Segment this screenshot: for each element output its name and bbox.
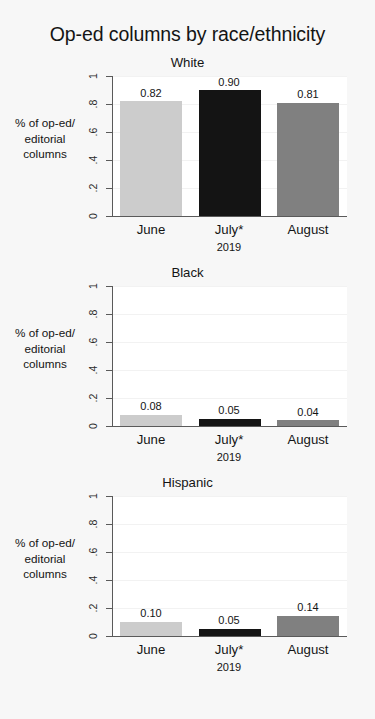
panel-black: Black % of op-ed/ editorial columns 0 .2… xyxy=(0,265,375,475)
y-axis-title: % of op-ed/ editorial columns xyxy=(8,115,82,162)
y-axis-title-line1: % of op-ed/ xyxy=(8,535,82,551)
x-axis-spine xyxy=(112,426,347,427)
y-tick-label: .4 xyxy=(87,359,99,381)
gridline xyxy=(112,370,347,371)
x-label-august: August xyxy=(277,642,339,657)
y-tick-label: .4 xyxy=(87,569,99,591)
x-label-july: July* xyxy=(198,432,260,447)
y-axis-title-line1: % of op-ed/ xyxy=(8,325,82,341)
x-label-june: June xyxy=(120,222,182,237)
bar-value-august: 0.14 xyxy=(277,601,339,613)
x-label-june: June xyxy=(120,642,182,657)
bar-value-august: 0.04 xyxy=(277,406,339,418)
y-axis-title-line2: editorial xyxy=(8,341,82,357)
bar-value-july: 0.90 xyxy=(198,76,260,88)
chart-figure: Op-ed columns by race/ethnicity White % … xyxy=(0,0,375,719)
x-label-august: August xyxy=(277,432,339,447)
bar-july[interactable] xyxy=(199,629,261,636)
y-tick-label: .8 xyxy=(87,513,99,535)
y-axis-title: % of op-ed/ editorial columns xyxy=(8,325,82,372)
x-label-july: July* xyxy=(198,222,260,237)
x-sub-label-year: 2019 xyxy=(198,661,260,673)
y-tick-label: .6 xyxy=(87,331,99,353)
y-tick-label: .2 xyxy=(87,597,99,619)
y-axis-title-line3: columns xyxy=(8,146,82,162)
gridline xyxy=(112,398,347,399)
bar-june[interactable] xyxy=(120,101,182,216)
bar-value-july: 0.05 xyxy=(198,404,260,416)
gridline xyxy=(112,524,347,525)
bar-august[interactable] xyxy=(277,616,339,636)
y-axis-spine xyxy=(112,496,113,636)
gridline xyxy=(112,552,347,553)
y-tick-label: .8 xyxy=(87,93,99,115)
bar-june[interactable] xyxy=(120,622,182,636)
page-title: Op-ed columns by race/ethnicity xyxy=(0,23,375,46)
bar-august[interactable] xyxy=(277,103,339,216)
panel-title-hispanic: Hispanic xyxy=(0,475,375,490)
gridline xyxy=(112,314,347,315)
bar-july[interactable] xyxy=(199,90,261,216)
gridline xyxy=(112,580,347,581)
bar-june[interactable] xyxy=(120,415,182,426)
y-tick-label: 1 xyxy=(87,275,99,297)
x-label-june: June xyxy=(120,432,182,447)
gridline xyxy=(112,496,347,497)
y-tick-label: 0 xyxy=(87,205,99,227)
panel-title-white: White xyxy=(0,55,375,70)
bar-value-june: 0.82 xyxy=(120,87,182,99)
gridline xyxy=(112,342,347,343)
y-axis-title-line2: editorial xyxy=(8,131,82,147)
y-tick-label: 0 xyxy=(87,415,99,437)
y-tick-label: .6 xyxy=(87,121,99,143)
gridline xyxy=(112,286,347,287)
y-axis-spine xyxy=(112,76,113,216)
y-axis-title-line3: columns xyxy=(8,566,82,582)
x-label-august: August xyxy=(277,222,339,237)
y-tick-label: .2 xyxy=(87,177,99,199)
panel-hispanic: Hispanic % of op-ed/ editorial columns 0… xyxy=(0,475,375,719)
bar-value-july: 0.05 xyxy=(198,614,260,626)
panel-white: White % of op-ed/ editorial columns 0 .2… xyxy=(0,55,375,265)
bar-value-june: 0.10 xyxy=(120,607,182,619)
x-sub-label-year: 2019 xyxy=(198,451,260,463)
bar-value-june: 0.08 xyxy=(120,400,182,412)
y-tick-label: .4 xyxy=(87,149,99,171)
y-tick-label: .2 xyxy=(87,387,99,409)
x-label-july: July* xyxy=(198,642,260,657)
y-axis-title-line3: columns xyxy=(8,356,82,372)
y-tick-label: .6 xyxy=(87,541,99,563)
y-axis-title-line2: editorial xyxy=(8,551,82,567)
bar-value-august: 0.81 xyxy=(277,88,339,100)
x-sub-label-year: 2019 xyxy=(198,241,260,253)
y-axis-title-line1: % of op-ed/ xyxy=(8,115,82,131)
x-axis-spine xyxy=(112,216,347,217)
bar-july[interactable] xyxy=(199,419,261,426)
y-axis-spine xyxy=(112,286,113,426)
panel-title-black: Black xyxy=(0,265,375,280)
y-axis-title: % of op-ed/ editorial columns xyxy=(8,535,82,582)
y-tick-label: 1 xyxy=(87,485,99,507)
y-tick-label: 0 xyxy=(87,625,99,647)
y-tick-label: 1 xyxy=(87,65,99,87)
y-tick-label: .8 xyxy=(87,303,99,325)
x-axis-spine xyxy=(112,636,347,637)
